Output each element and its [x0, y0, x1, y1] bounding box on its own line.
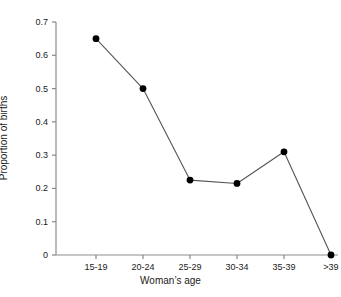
line-chart-plot [0, 0, 341, 297]
x-axis-ticks [96, 255, 284, 259]
x-axis-tick-label: 15-19 [84, 263, 107, 272]
y-axis-title: Proportion of births [0, 96, 9, 181]
y-axis-tick-label: 0.1 [0, 217, 48, 226]
y-axis-tick-label: 0.7 [0, 18, 48, 27]
data-point-markers [93, 35, 335, 258]
y-axis-title-text: Proportion of births [0, 96, 9, 181]
x-axis-tick-label: 20-24 [131, 263, 154, 272]
data-point [281, 148, 288, 155]
y-axis-tick-label: 0 [0, 251, 48, 260]
y-axis-tick-label: 0.5 [0, 84, 48, 93]
chart-axes [52, 22, 338, 259]
data-point [328, 252, 335, 259]
x-axis-title-text: Woman’s age [140, 275, 201, 286]
data-point [140, 85, 147, 92]
chart-figure: 00.10.20.30.40.50.60.7 15-1920-2425-2930… [0, 0, 341, 297]
x-axis-tick-label: 25-29 [178, 263, 201, 272]
data-series-line [96, 39, 331, 255]
y-axis-tick-label: 0.2 [0, 184, 48, 193]
data-point [93, 35, 100, 42]
data-point [234, 180, 241, 187]
y-axis-tick-label: 0.6 [0, 51, 48, 60]
x-axis-tick-label: 30-34 [225, 263, 248, 272]
x-axis-tick-label: 35-39 [272, 263, 295, 272]
data-point [187, 177, 194, 184]
x-axis-tick-label: >39 [323, 263, 338, 272]
x-axis-title: Woman’s age [0, 276, 341, 286]
